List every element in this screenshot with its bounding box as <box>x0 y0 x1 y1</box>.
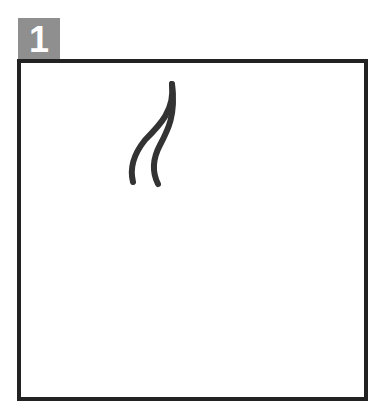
hand-drawn-strokes <box>0 0 388 411</box>
